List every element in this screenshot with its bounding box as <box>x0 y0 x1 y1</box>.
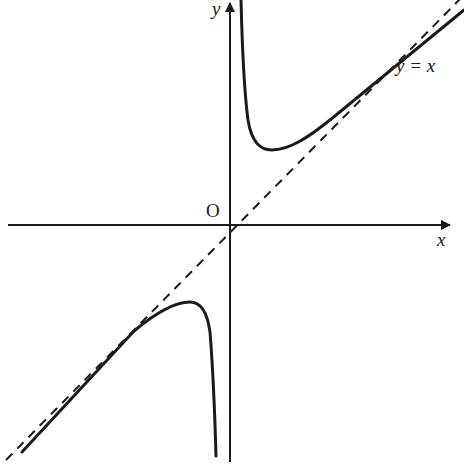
x-axis-label: x <box>437 230 445 249</box>
graph-svg <box>0 0 464 471</box>
curve-lower-branch <box>22 302 216 456</box>
graph-canvas: y O x y = x <box>0 0 464 471</box>
origin-label: O <box>206 201 220 220</box>
y-axis-label: y <box>212 0 220 18</box>
asymptote-label: y = x <box>396 56 435 75</box>
